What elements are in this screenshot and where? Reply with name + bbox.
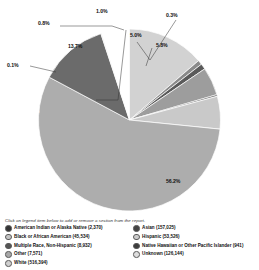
pie-percent-label: 0.8% xyxy=(38,20,49,26)
legend-item[interactable]: Hispanic (53,526) xyxy=(133,234,259,241)
pie-percent-label: 0.3% xyxy=(166,12,177,18)
pie-percent-label: 1.0% xyxy=(96,8,107,14)
pie-percent-label: 12.1% xyxy=(25,108,39,114)
pie-percent-label: 13.7% xyxy=(68,43,82,49)
legend-item[interactable]: Other (7,571) xyxy=(5,251,129,258)
legend-swatch-icon xyxy=(5,234,12,241)
pie-percent-label: 5.0% xyxy=(130,32,141,38)
legend-swatch-icon xyxy=(133,225,140,232)
legend-item[interactable]: Unknown (126,144) xyxy=(133,251,259,258)
legend-swatch-icon xyxy=(5,225,12,232)
legend-hint: Click on legend item below to add or rem… xyxy=(0,216,259,225)
legend-item-label: Unknown (126,144) xyxy=(142,252,184,257)
legend-swatch-icon xyxy=(133,251,140,258)
pie-percent-label: 0.1% xyxy=(7,62,18,68)
legend-swatch-icon xyxy=(133,243,140,250)
legend-item-label: Multiple Race, Non-Hispanic (8,932) xyxy=(14,244,92,249)
pie-percent-label: 56.2% xyxy=(166,178,180,184)
pie-percent-label: 5.8% xyxy=(156,42,167,48)
legend-item-label: Other (7,571) xyxy=(14,252,42,257)
legend-swatch-icon xyxy=(5,243,12,250)
legend-block: Click on legend item below to add or rem… xyxy=(0,216,259,270)
legend-item[interactable]: Multiple Race, Non-Hispanic (8,932) xyxy=(5,243,129,250)
pie-slices[interactable] xyxy=(39,29,221,211)
legend-item-label: Black or African American (45,534) xyxy=(14,235,90,240)
legend-swatch-icon xyxy=(5,251,12,258)
legend-item[interactable]: American Indian or Alaska Native (2,370) xyxy=(5,225,129,232)
legend-item-label: Hispanic (53,526) xyxy=(142,235,180,240)
legend-item-label: Native Hawaiian or Other Pacific Islande… xyxy=(142,244,243,249)
pie-chart-area: 0.8%1.0%0.3%5.0%5.8%13.7%0.1%12.1%56.2% xyxy=(0,0,259,216)
leader-line xyxy=(60,26,124,30)
legend-item-label: White (516,394) xyxy=(14,261,47,266)
legend-column-left: American Indian or Alaska Native (2,370)… xyxy=(5,225,129,267)
legend-columns: American Indian or Alaska Native (2,370)… xyxy=(0,225,259,267)
legend-item[interactable]: White (516,394) xyxy=(5,260,129,267)
legend-item[interactable]: Native Hawaiian or Other Pacific Islande… xyxy=(133,243,259,250)
legend-item-label: Asian (157,025) xyxy=(142,226,175,231)
legend-item[interactable]: Asian (157,025) xyxy=(133,225,259,232)
legend-swatch-icon xyxy=(5,260,12,267)
legend-item[interactable]: Black or African American (45,534) xyxy=(5,234,129,241)
leader-line xyxy=(30,66,56,72)
legend-item-label: American Indian or Alaska Native (2,370) xyxy=(14,226,102,231)
legend-swatch-icon xyxy=(133,234,140,241)
legend-column-right: Asian (157,025)Hispanic (53,526)Native H… xyxy=(133,225,259,267)
